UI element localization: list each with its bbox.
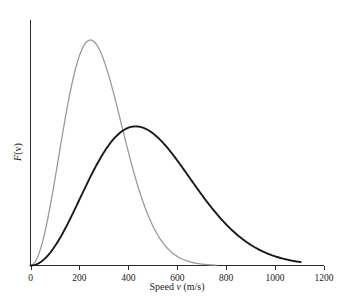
x-tick-label-0: 0 bbox=[28, 273, 33, 283]
curve-grey-distribution bbox=[31, 40, 217, 265]
x-tick-label-800: 800 bbox=[219, 273, 234, 283]
y-axis-title: F(v) bbox=[12, 143, 24, 162]
curve-black-distribution bbox=[31, 126, 301, 265]
chart-figure: 020040060080010001200 Speed v (m/s) F(v) bbox=[0, 0, 338, 305]
x-tick-label-1000: 1000 bbox=[266, 273, 285, 283]
plot-area: 020040060080010001200 Speed v (m/s) F(v) bbox=[0, 0, 338, 305]
x-tick-label-400: 400 bbox=[121, 273, 136, 283]
x-axis-title: Speed v (m/s) bbox=[149, 281, 204, 293]
x-axis-tick-marks bbox=[32, 266, 325, 270]
x-tick-label-200: 200 bbox=[72, 273, 87, 283]
x-tick-label-1200: 1200 bbox=[315, 273, 334, 283]
